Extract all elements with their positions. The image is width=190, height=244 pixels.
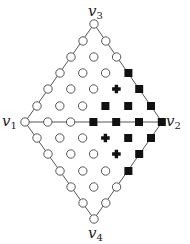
open-circle-icon xyxy=(56,167,64,175)
open-circle-icon xyxy=(79,199,87,207)
filled-square-icon xyxy=(101,102,109,110)
vertex-label-v2: v2 xyxy=(166,112,181,131)
open-circle-icon xyxy=(90,20,98,28)
filled-square-icon xyxy=(112,118,120,126)
open-circle-icon xyxy=(90,183,98,191)
open-circle-icon xyxy=(112,183,120,191)
filled-square-icon xyxy=(135,150,143,158)
open-circle-icon xyxy=(101,167,109,175)
open-circle-icon xyxy=(56,69,64,77)
open-circle-icon xyxy=(102,199,110,207)
open-circle-icon xyxy=(101,69,109,77)
filled-square-icon xyxy=(158,118,166,126)
open-circle-icon xyxy=(67,53,75,61)
open-circle-icon xyxy=(89,150,97,158)
open-circle-icon xyxy=(67,85,75,93)
open-circle-icon xyxy=(66,118,74,126)
open-circle-icon xyxy=(90,53,98,61)
open-circle-icon xyxy=(33,134,41,142)
open-circle-icon xyxy=(79,69,87,77)
open-circle-icon xyxy=(21,118,29,126)
open-circle-icon xyxy=(79,167,87,175)
open-circle-icon xyxy=(90,215,98,223)
filled-square-icon xyxy=(135,118,143,126)
open-circle-icon xyxy=(44,118,52,126)
filled-square-icon xyxy=(89,118,97,126)
open-circle-icon xyxy=(102,37,110,45)
open-circle-icon xyxy=(67,183,75,191)
vertex-label-v4: v4 xyxy=(88,224,103,243)
open-circle-icon xyxy=(56,134,64,142)
filled-square-icon xyxy=(147,102,155,110)
filled-cross-icon xyxy=(101,134,110,143)
filled-square-icon xyxy=(124,69,132,77)
open-circle-icon xyxy=(78,102,86,110)
vertex-label-v3: v3 xyxy=(88,2,103,21)
diamond-lattice-diagram: v1v2v3v4 xyxy=(0,0,190,244)
filled-square-icon xyxy=(124,134,132,142)
filled-square-icon xyxy=(147,134,155,142)
vertex-label-v1: v1 xyxy=(2,112,17,131)
open-circle-icon xyxy=(89,85,97,93)
open-circle-icon xyxy=(44,85,52,93)
open-circle-icon xyxy=(33,102,41,110)
open-circle-icon xyxy=(56,102,64,110)
filled-square-icon xyxy=(124,102,132,110)
open-circle-icon xyxy=(112,53,120,61)
filled-square-icon xyxy=(124,167,132,175)
filled-cross-icon xyxy=(112,85,121,94)
open-circle-icon xyxy=(67,150,75,158)
open-circle-icon xyxy=(79,37,87,45)
open-circle-icon xyxy=(44,150,52,158)
filled-square-icon xyxy=(135,85,143,93)
open-circle-icon xyxy=(78,134,86,142)
filled-cross-icon xyxy=(112,150,121,159)
